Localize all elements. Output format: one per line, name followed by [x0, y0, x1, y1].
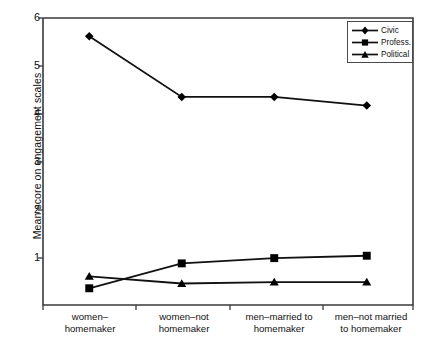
data-point-square: [178, 259, 186, 267]
chart-legend: Civic Profess. Political: [347, 21, 413, 63]
data-point-square: [270, 254, 278, 262]
chart-figure: Mean score on engagement scales 6 5 4 3 …: [0, 0, 432, 350]
triangle-marker-icon: [351, 49, 379, 60]
legend-item-profess: Profess.: [351, 36, 411, 48]
data-point-square: [363, 252, 371, 260]
legend-label-civic: Civic: [381, 26, 399, 35]
legend-item-civic: Civic: [351, 24, 399, 36]
legend-label-profess: Profess.: [381, 38, 411, 47]
series-line-civic: [89, 36, 367, 105]
data-point-diamond: [270, 93, 279, 102]
legend-item-political: Political: [351, 48, 409, 60]
series-civic: [85, 32, 371, 110]
legend-label-political: Political: [381, 50, 409, 59]
data-point-diamond: [362, 101, 371, 110]
series-profess: [85, 252, 370, 292]
diamond-marker-icon: [351, 25, 379, 36]
series-political: [85, 272, 372, 287]
square-marker-icon: [351, 37, 379, 48]
data-point-square: [85, 284, 93, 292]
series-layer: [85, 32, 372, 292]
